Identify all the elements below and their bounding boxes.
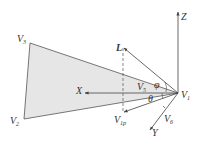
- phi-text: φ: [154, 79, 160, 90]
- v1-label: V1: [181, 90, 190, 101]
- v2-label: V2: [10, 116, 19, 127]
- v6-sub: 6: [170, 119, 173, 125]
- x-label-text: X: [76, 85, 82, 96]
- v1p-sub: 1p: [120, 120, 126, 126]
- x-label: X: [76, 86, 82, 96]
- l-label: L: [116, 43, 122, 53]
- phi-label: φ: [154, 80, 160, 90]
- theta-text: θ: [148, 93, 153, 104]
- diagram-svg: [0, 0, 204, 147]
- l-label-text: L: [116, 42, 122, 53]
- v3-label: V3: [17, 34, 26, 45]
- v1-sub: 1: [187, 95, 190, 101]
- z-label-text: Z: [181, 11, 187, 22]
- z-label: Z: [181, 12, 187, 22]
- v1p-label: V1p: [114, 115, 126, 126]
- v6-tick: [163, 106, 165, 108]
- y-label: Y: [152, 128, 158, 138]
- theta-label: θ: [148, 94, 153, 104]
- y-label-text: Y: [152, 127, 158, 138]
- v5-sub: 5: [143, 87, 146, 93]
- v5-label: V5: [137, 82, 146, 93]
- v3-sub: 3: [23, 39, 26, 45]
- v2-sub: 2: [16, 121, 19, 127]
- v6-label: V6: [164, 114, 173, 125]
- diagram-canvas: Z L V3 V2 V1 X V5 φ θ V1p V6 Y: [0, 0, 204, 147]
